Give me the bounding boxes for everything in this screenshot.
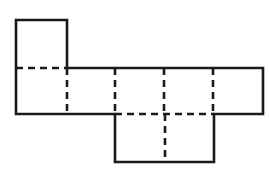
net-diagram-figure bbox=[0, 0, 269, 179]
face-middle-1 bbox=[16, 68, 67, 114]
face-middle-4 bbox=[164, 68, 213, 114]
face-middle-5 bbox=[213, 68, 263, 114]
face-middle-3 bbox=[115, 68, 164, 114]
face-top-left bbox=[16, 20, 67, 68]
net-diagram-svg bbox=[0, 0, 269, 179]
face-middle-2 bbox=[67, 68, 115, 114]
